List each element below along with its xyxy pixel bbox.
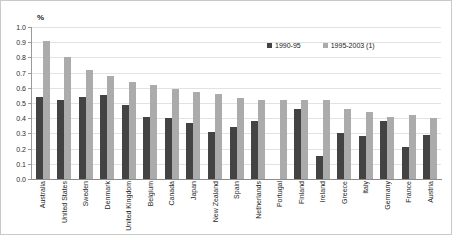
- x-axis-label: Denmark: [97, 181, 119, 235]
- legend-label: 1990-95: [275, 42, 301, 49]
- bar-group: [226, 27, 248, 179]
- x-axis-label-text: Spain: [233, 181, 240, 199]
- x-axis-label: Greece: [333, 181, 355, 235]
- bar: [359, 136, 366, 179]
- x-axis-label-text: Germany: [384, 181, 391, 210]
- x-axis-label-text: Australia: [39, 181, 46, 208]
- bars-layer: [32, 27, 441, 179]
- bar-chart-figure: % 1.00.90.80.70.60.50.40.30.20.10.0 Aust…: [0, 0, 452, 235]
- x-axis-label: Germany: [377, 181, 399, 235]
- bar: [380, 121, 387, 179]
- x-axis-label: Canada: [161, 181, 183, 235]
- bar: [230, 127, 237, 179]
- bar: [344, 109, 351, 179]
- x-axis-label-text: Canada: [168, 181, 175, 206]
- bar-group: [183, 27, 205, 179]
- bar-group: [312, 27, 334, 179]
- bar-group: [247, 27, 269, 179]
- bar-group: [161, 27, 183, 179]
- bar: [251, 121, 258, 179]
- bar-group: [333, 27, 355, 179]
- x-axis-label: Belgium: [140, 181, 162, 235]
- bar: [36, 97, 43, 179]
- bar: [165, 118, 172, 179]
- legend-label: 1995-2003 (1): [331, 42, 375, 49]
- x-axis-label: United States: [54, 181, 76, 235]
- bar: [193, 92, 200, 179]
- bar: [337, 133, 344, 179]
- y-axis-tick-label: 0.1: [16, 160, 26, 167]
- bar-group: [290, 27, 312, 179]
- bar-group: [118, 27, 140, 179]
- x-axis-label: Netherlands: [247, 181, 269, 235]
- bar: [402, 147, 409, 179]
- x-axis-label-text: United States: [61, 181, 68, 223]
- bar-group: [54, 27, 76, 179]
- bar: [122, 105, 129, 179]
- x-axis-category-labels: AustraliaUnited StatesSwedenDenmarkUnite…: [32, 181, 441, 235]
- bar: [294, 109, 301, 179]
- x-axis-label-text: New Zealand: [212, 181, 219, 222]
- bar: [430, 118, 437, 179]
- bar: [64, 57, 71, 179]
- y-axis-title: %: [37, 14, 44, 22]
- x-axis-label: Ireland: [312, 181, 334, 235]
- bar: [143, 117, 150, 179]
- x-axis-label-text: Belgium: [147, 181, 154, 206]
- y-axis-tick-label: 0.3: [16, 130, 26, 137]
- bar: [86, 70, 93, 179]
- bar-group: [355, 27, 377, 179]
- y-axis-tick-label: 0.7: [16, 69, 26, 76]
- bar: [280, 100, 287, 179]
- x-axis-label-text: France: [405, 181, 412, 203]
- x-axis-label-text: Denmark: [104, 181, 111, 209]
- x-axis-label: France: [398, 181, 420, 235]
- bar: [423, 135, 430, 179]
- x-axis-label: Japan: [183, 181, 205, 235]
- y-axis-tick-label: 0.6: [16, 84, 26, 91]
- x-axis-line: [31, 179, 442, 180]
- x-axis-label-text: Sweden: [82, 181, 89, 206]
- x-axis-label-text: Japan: [190, 181, 197, 200]
- x-axis-label-text: Austria: [427, 181, 434, 203]
- bar-group: [75, 27, 97, 179]
- y-axis-tick-label: 0.9: [16, 39, 26, 46]
- bar: [43, 41, 50, 179]
- legend-entry-series-0: 1990-95: [267, 42, 301, 49]
- x-axis-label: Austria: [420, 181, 442, 235]
- bar: [79, 97, 86, 179]
- bar-group: [204, 27, 226, 179]
- bar: [323, 100, 330, 179]
- bar: [208, 132, 215, 179]
- y-axis-tick-label: 0.0: [16, 176, 26, 183]
- x-axis-label: Australia: [32, 181, 54, 235]
- bar: [100, 95, 107, 179]
- x-axis-label-text: Italy: [362, 181, 369, 194]
- x-axis-label: Spain: [226, 181, 248, 235]
- x-axis-label-text: Ireland: [319, 181, 326, 202]
- x-axis-label: Sweden: [75, 181, 97, 235]
- x-axis-label: Italy: [355, 181, 377, 235]
- y-axis-tick-label: 0.5: [16, 100, 26, 107]
- x-axis-label-text: Portugal: [276, 181, 283, 207]
- y-axis-tick-label: 0.8: [16, 54, 26, 61]
- bar: [366, 112, 373, 179]
- y-axis-tick-label: 0.4: [16, 115, 26, 122]
- bar-group: [269, 27, 291, 179]
- bar: [186, 123, 193, 179]
- bar: [150, 85, 157, 179]
- bar: [107, 76, 114, 179]
- legend-swatch-icon: [323, 43, 328, 48]
- bar: [316, 156, 323, 179]
- bar: [172, 89, 179, 179]
- x-axis-label: Portugal: [269, 181, 291, 235]
- legend-swatch-icon: [267, 43, 272, 48]
- x-axis-label: Finland: [290, 181, 312, 235]
- x-axis-label: United Kingdom: [118, 181, 140, 235]
- bar: [215, 94, 222, 179]
- x-axis-label-text: Greece: [341, 181, 348, 204]
- bar: [301, 100, 308, 179]
- legend-entry-series-1: 1995-2003 (1): [323, 42, 375, 49]
- bar-group: [377, 27, 399, 179]
- bar: [57, 100, 64, 179]
